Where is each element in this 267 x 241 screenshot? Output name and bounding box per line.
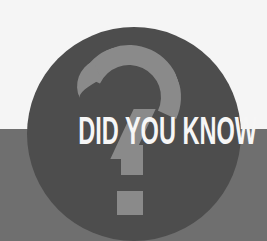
badge-title: DID YOU KNOW bbox=[78, 111, 190, 151]
question-mark-dot bbox=[117, 191, 143, 215]
